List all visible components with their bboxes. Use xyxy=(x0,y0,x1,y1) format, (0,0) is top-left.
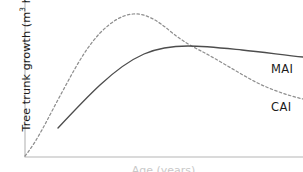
chart-plot-area xyxy=(0,0,303,172)
series-label-cai: CAI xyxy=(271,100,292,114)
y-axis-label-main: Tree trunk growth (m xyxy=(20,12,33,132)
x-axis-label: Age (years) xyxy=(24,164,303,172)
series-label-mai: MAI xyxy=(271,62,293,76)
y-axis-unit-exponent-1: 3 xyxy=(18,7,27,12)
cai-curve xyxy=(25,14,303,156)
y-axis-label: Tree trunk growth (m3 ha-1 yr-1) xyxy=(20,0,33,132)
figure-container: Tree trunk growth (m3 ha-1 yr-1) MAI CAI… xyxy=(0,0,303,172)
y-axis-label-mid: ha xyxy=(20,0,33,7)
